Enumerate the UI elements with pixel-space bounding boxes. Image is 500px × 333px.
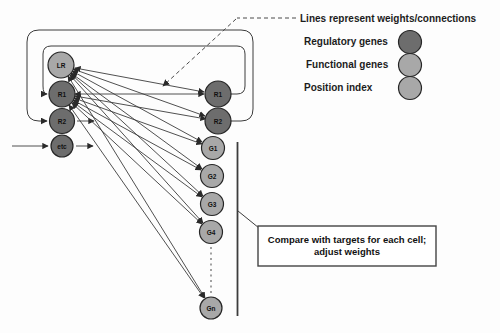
node-r2-output-label: R2 (214, 118, 223, 125)
legend-title: Lines represent weights/connections (300, 13, 477, 24)
input-nodes: LR R1 R2 etc (48, 52, 75, 157)
node-gn: Gn (200, 297, 222, 319)
node-g3: G3 (201, 193, 224, 216)
weight-line (73, 100, 201, 170)
node-g4: G4 (200, 221, 223, 244)
legend-swatch-regulatory (399, 31, 422, 54)
node-g1: G1 (202, 137, 225, 160)
weight-connection-lines (68, 68, 206, 298)
legend-label-regulatory: Regulatory genes (304, 36, 388, 47)
gene-network-figure: Compare with targets for each cell; adju… (0, 0, 500, 333)
weight-line (75, 68, 204, 92)
weight-line (68, 76, 205, 298)
weight-line (73, 69, 205, 116)
node-g2: G2 (201, 165, 224, 188)
node-r2-output: R2 (205, 108, 231, 134)
node-g1-label: G1 (209, 145, 218, 152)
node-r1-input-label: R1 (58, 91, 67, 98)
callout-line2: adjust weights (314, 246, 380, 257)
node-lr: LR (48, 52, 74, 78)
legend-swatch-functional (399, 54, 422, 77)
legend: Lines represent weights/connections Regu… (300, 13, 477, 100)
node-lr-label: LR (57, 62, 66, 69)
node-etc-input-label: etc (57, 143, 67, 150)
node-g2-label: G2 (208, 173, 217, 180)
node-r2-input-label: R2 (58, 118, 67, 125)
callout-connector-line (238, 211, 259, 228)
node-r1-output: R1 (205, 81, 231, 107)
weight-line (75, 96, 206, 119)
node-etc-input: etc (51, 135, 73, 157)
legend-label-functional: Functional genes (306, 59, 389, 70)
legend-label-position: Position index (304, 82, 373, 93)
callout-line1: Compare with targets for each cell; (268, 234, 426, 245)
node-r1-output-label: R1 (214, 91, 223, 98)
node-r1-input: R1 (49, 81, 75, 107)
legend-swatch-position (399, 77, 422, 100)
node-r2-input: R2 (50, 109, 75, 134)
output-nodes: R1 R2 G1 G2 G3 G4 Gn (200, 81, 232, 319)
legend-pointer-dashed-arrow (163, 18, 296, 86)
node-gn-label: Gn (206, 305, 215, 312)
callout-box: Compare with targets for each cell; adju… (258, 226, 436, 266)
node-g4-label: G4 (207, 229, 216, 236)
weight-line (73, 102, 202, 197)
node-g3-label: G3 (208, 201, 217, 208)
diagram-canvas: Compare with targets for each cell; adju… (0, 0, 500, 333)
